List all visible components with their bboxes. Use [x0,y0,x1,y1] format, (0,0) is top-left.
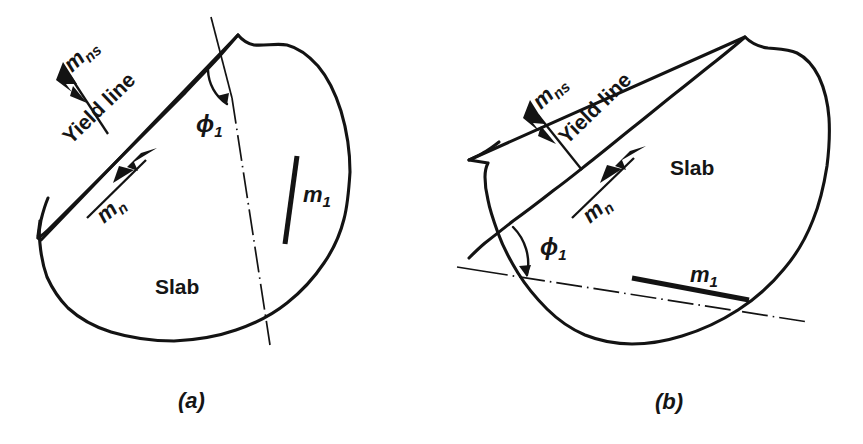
caption-a: (a) [178,388,205,413]
angle-arc-arrowhead-a [217,93,229,105]
centerline-a [232,98,270,345]
slab-label-a: Slab [155,275,199,298]
figure-root: ϕ1 m1 mns [0,0,863,444]
m-n-arrowhead-outer-b [615,146,646,170]
slab-label-b: Slab [670,156,714,179]
centerline-left-b [457,267,482,271]
panel-b: ϕ1 m1 mns [457,37,829,414]
centerline-top-a [211,17,232,98]
slab-left-vertex-b [469,142,499,160]
yield-line-figure: ϕ1 m1 mns [0,0,863,444]
phi1-label-a: ϕ1 [196,110,223,140]
phi1-label-b: ϕ1 [540,233,567,263]
m1-label-b: m1 [690,262,718,290]
m-n-label-b: mn [577,190,617,230]
caption-b: (b) [655,389,683,414]
yield-line-b [469,37,745,258]
panel-a: ϕ1 m1 mns [38,17,350,413]
m-n-arrowhead-outer-a [127,148,157,171]
m-n-label-a: mn [91,190,131,230]
m1-bar-a [285,156,297,244]
m1-label-a: m1 [303,182,331,210]
